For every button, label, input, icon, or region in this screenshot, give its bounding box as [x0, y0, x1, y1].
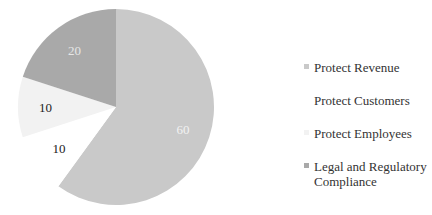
legend-item-protect-employees: Protect Employees — [304, 126, 412, 141]
legend-item-protect-revenue: Protect Revenue — [304, 60, 400, 75]
legend-item-protect-customers: Protect Customers — [304, 93, 410, 108]
legend-label: Protect Revenue — [314, 60, 400, 75]
legend-item-legal-regulatory: Legal and Regulatory Compliance — [304, 159, 432, 189]
legend-marker-icon — [304, 163, 309, 168]
legend-marker-icon — [304, 97, 309, 102]
pie-slice-value-label: 20 — [68, 43, 81, 58]
legend-label: Protect Employees — [314, 126, 412, 141]
pie-slice-value-label: 60 — [177, 122, 190, 137]
legend-label: Legal and Regulatory Compliance — [314, 159, 427, 189]
pie-slice-value-label: 10 — [39, 100, 52, 115]
legend-marker-icon — [304, 64, 309, 69]
legend-marker-icon — [304, 130, 309, 135]
pie-chart: 60101020 — [0, 0, 260, 215]
legend-label: Protect Customers — [314, 93, 410, 108]
pie-slice-value-label: 10 — [52, 141, 65, 156]
